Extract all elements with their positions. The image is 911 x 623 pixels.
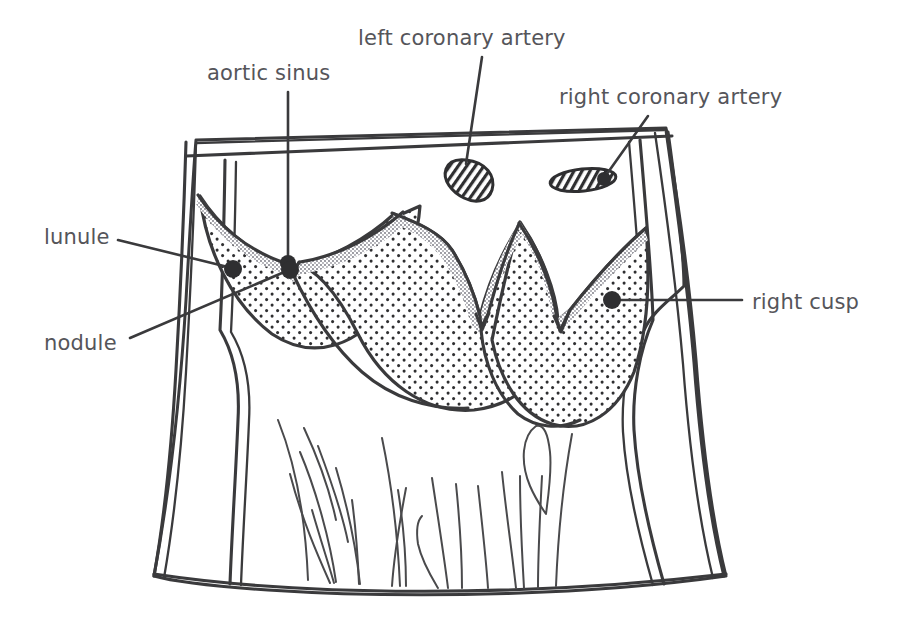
aortic-valve-diagram: aortic sinus left coronary artery right … bbox=[0, 0, 911, 623]
label-left-coronary-artery[interactable]: left coronary artery bbox=[358, 26, 566, 50]
label-nodule[interactable]: nodule bbox=[44, 331, 117, 355]
dot-right-coronary-artery bbox=[597, 172, 611, 186]
label-aortic-sinus[interactable]: aortic sinus bbox=[207, 61, 330, 85]
label-right-cusp[interactable]: right cusp bbox=[752, 290, 859, 314]
dot-lunule bbox=[224, 260, 242, 278]
dot-nodule bbox=[281, 261, 299, 279]
dot-right-cusp bbox=[603, 291, 621, 309]
anatomical-figure-root: aortic sinus left coronary artery right … bbox=[0, 0, 911, 623]
label-lunule[interactable]: lunule bbox=[44, 225, 110, 249]
label-right-coronary-artery[interactable]: right coronary artery bbox=[559, 85, 782, 109]
